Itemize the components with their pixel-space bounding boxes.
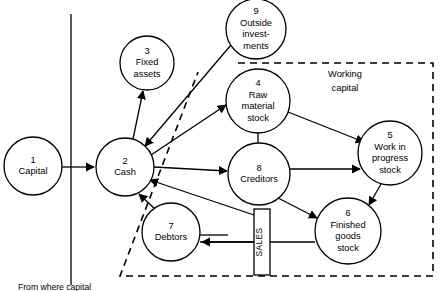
working-capital-label-line-2: capital <box>332 83 359 93</box>
node-label-2: Cash <box>114 167 136 177</box>
node-label-3: Fixed <box>136 57 159 67</box>
node-label-4: Raw <box>249 90 268 100</box>
sales-box-label: SALES <box>254 227 264 256</box>
diagram-caption: From where capital <box>18 282 91 291</box>
node-6[interactable]: 6Finishedgoodsstock <box>315 198 381 264</box>
node-label-6: Finished <box>330 220 365 230</box>
node-label-9: invest- <box>242 29 269 39</box>
node-label-3: assets <box>134 69 161 79</box>
node-5[interactable]: 5Work inprogressstock <box>358 121 422 185</box>
node-label-8: Creditors <box>240 174 278 184</box>
working-capital-label: Working capital <box>328 69 362 93</box>
node-number-7: 7 <box>168 221 173 231</box>
node-number-8: 8 <box>256 163 261 173</box>
node-number-6: 6 <box>345 208 350 218</box>
node-label-9: Outside <box>240 18 272 28</box>
node-label-7: Debtors <box>155 232 188 242</box>
node-label-5: stock <box>379 165 401 175</box>
node-7[interactable]: 7Debtors <box>142 203 200 261</box>
node-8[interactable]: 8Creditors <box>228 143 290 205</box>
node-label-6: goods <box>335 231 361 241</box>
node-number-3: 3 <box>144 46 149 56</box>
sales-box: SALES <box>254 209 270 275</box>
node-number-9: 9 <box>253 6 258 16</box>
diagram-canvas: SALES Working capital 1Capital2Cash3Fixe… <box>0 0 440 291</box>
node-label-5: progress <box>372 153 409 163</box>
node-number-2: 2 <box>122 156 127 166</box>
node-number-5: 5 <box>387 130 392 140</box>
node-label-9: ments <box>243 41 269 51</box>
nodes-layer: 1Capital2Cash3Fixedassets4Rawmaterialsto… <box>4 0 422 264</box>
working-capital-label-line-1: Working <box>328 69 362 79</box>
flow-creditors-to-finished-goods <box>278 198 317 218</box>
node-1[interactable]: 1Capital <box>4 137 62 195</box>
node-label-5: Work in <box>374 142 405 152</box>
flow-wip-to-finished-goods <box>369 184 381 205</box>
node-3[interactable]: 3Fixedassets <box>120 36 174 90</box>
node-2[interactable]: 2Cash <box>96 138 154 196</box>
flow-cash-to-creditors <box>154 167 227 171</box>
node-9[interactable]: 9Outsideinvest-ments <box>226 0 286 59</box>
flow-raw-material-to-wip <box>288 112 364 142</box>
node-label-4: stock <box>247 113 269 123</box>
node-number-1: 1 <box>30 155 35 165</box>
flow-cash-to-fixed-assets <box>133 91 143 139</box>
working-capital-diagram: SALES Working capital 1Capital2Cash3Fixe… <box>0 0 440 291</box>
node-label-1: Capital <box>19 166 48 176</box>
node-label-6: stock <box>337 243 359 253</box>
flow-debtors-to-cash <box>139 194 156 210</box>
node-label-4: material <box>241 101 274 111</box>
flow-cash-to-raw-material <box>151 105 226 155</box>
node-number-4: 4 <box>255 78 260 88</box>
node-4[interactable]: 4Rawmaterialstock <box>226 69 290 133</box>
